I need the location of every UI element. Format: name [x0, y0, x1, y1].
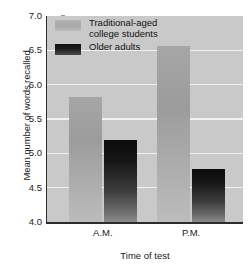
x-tick-label: A.M. [73, 227, 133, 238]
bar-pm-traditional [157, 46, 190, 222]
legend-item: Older adults [55, 42, 235, 55]
bar-am-traditional [69, 97, 102, 222]
legend: Traditional-aged college studentsOlder a… [55, 18, 235, 58]
x-axis-title: Time of test [47, 250, 243, 261]
y-tick-label: 6.5 [18, 45, 42, 55]
legend-label: Traditional-aged college students [89, 18, 158, 39]
y-tick-label: 7.0 [18, 11, 42, 21]
legend-label: Older adults [89, 42, 140, 53]
y-tick-label: 4.5 [18, 183, 42, 193]
x-tick-label: P.M. [161, 227, 221, 238]
y-tick-label: 5.0 [18, 148, 42, 158]
gridline [47, 84, 243, 86]
legend-item: Traditional-aged college students [55, 18, 235, 39]
legend-swatch-icon [55, 44, 81, 55]
y-tick-label: 4.0 [18, 217, 42, 227]
y-tick-label: 5.5 [18, 114, 42, 124]
x-axis-line [46, 222, 243, 224]
bar-chart: Mean number of words recalled 4.04.55.05… [0, 0, 251, 270]
legend-swatch-icon [55, 20, 81, 31]
y-tick-label: 6.0 [18, 80, 42, 90]
y-axis-ticks: 4.04.55.05.56.06.57.0 [18, 0, 42, 270]
bar-pm-older [192, 169, 225, 222]
bar-am-older [104, 140, 137, 222]
